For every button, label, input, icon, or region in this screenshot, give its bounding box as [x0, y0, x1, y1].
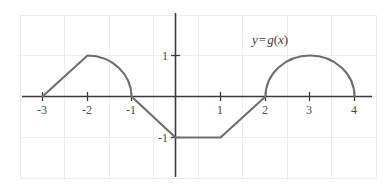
x-tick-label-4: 4	[351, 104, 357, 116]
x-tick-label--1: -1	[126, 104, 136, 116]
function-graph-figure: -3 -2 -1 1 2 3 4 1 -1 y=g(x)	[0, 0, 390, 187]
x-tick-label-1: 1	[217, 104, 223, 116]
curve-equation-label: y=g(x)	[252, 33, 288, 46]
graph-canvas	[0, 0, 390, 187]
curve-label-equals: =	[258, 32, 267, 47]
x-tick-label-3: 3	[306, 104, 312, 116]
axes	[22, 13, 372, 177]
x-tick-label--3: -3	[37, 104, 47, 116]
curve-label-y: y	[252, 32, 258, 47]
curve-label-close-paren: )	[284, 32, 288, 47]
x-tick-label-2: 2	[262, 104, 268, 116]
x-tick-label--2: -2	[82, 104, 92, 116]
y-tick-label-1: 1	[162, 50, 168, 62]
y-tick-label--1: -1	[158, 132, 168, 144]
